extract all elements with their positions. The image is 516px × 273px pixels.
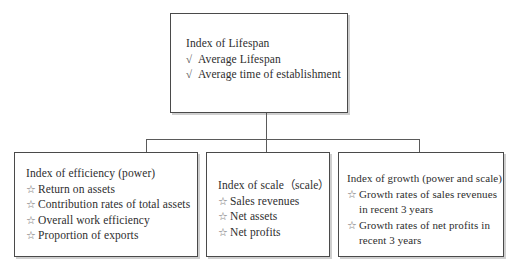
list-item: ☆ Growth rates of net profits in: [347, 218, 503, 234]
star-icon: ☆: [26, 182, 38, 198]
list-item-label: Average Lifespan: [198, 52, 281, 68]
star-icon: ☆: [347, 187, 359, 203]
list-item-continuation: ☆ recent 3 years: [347, 233, 503, 249]
spacer-icon: ☆: [347, 233, 359, 249]
connector-root-down: [266, 113, 267, 140]
list-item-label: Return on assets: [38, 182, 115, 198]
node-content: Index of Lifespan √ Average Lifespan √ A…: [186, 36, 347, 83]
node-index-of-growth[interactable]: Index of growth (power and scale) ☆ Grow…: [338, 152, 504, 257]
node-heading: Index of growth (power and scale): [347, 171, 503, 187]
node-index-of-scale[interactable]: Index of scale（scale） ☆ Sales revenues ☆…: [206, 152, 330, 257]
list-item: ☆ Growth rates of sales revenues: [347, 187, 503, 203]
list-item-continuation: ☆ in recent 3 years: [347, 202, 503, 218]
star-icon: ☆: [26, 213, 38, 229]
check-icon: √: [186, 67, 198, 83]
node-heading: Index of Lifespan: [186, 36, 347, 52]
list-item-label: Contribution rates of total assets: [38, 197, 190, 213]
star-icon: ☆: [26, 197, 38, 213]
list-item: √ Average time of establishment: [186, 67, 347, 83]
list-item: ☆ Return on assets: [26, 182, 197, 198]
node-heading-label: Index of Lifespan: [186, 36, 269, 52]
connector-horizontal-bus: [146, 139, 420, 140]
list-item-label: recent 3 years: [359, 233, 421, 249]
spacer-icon: ☆: [347, 202, 359, 218]
list-item: √ Average Lifespan: [186, 52, 347, 68]
list-item-label: Proportion of exports: [38, 228, 138, 244]
diagram-canvas: Index of Lifespan √ Average Lifespan √ A…: [0, 0, 516, 273]
node-heading: Index of scale（scale）: [218, 178, 329, 194]
connector-to-scale: [266, 139, 267, 153]
node-heading: Index of efficiency (power): [26, 166, 197, 182]
star-icon: ☆: [218, 209, 230, 225]
list-item-label: in recent 3 years: [359, 202, 433, 218]
node-content: Index of growth (power and scale) ☆ Grow…: [347, 171, 503, 249]
list-item-label: Sales revenues: [230, 194, 299, 210]
list-item-label: Net profits: [230, 225, 281, 241]
star-icon: ☆: [218, 225, 230, 241]
connector-to-growth: [419, 139, 420, 153]
list-item-label: Growth rates of net profits in: [359, 218, 490, 234]
list-item: ☆ Net assets: [218, 209, 329, 225]
node-index-of-efficiency[interactable]: Index of efficiency (power) ☆ Return on …: [14, 152, 198, 257]
list-item-label: Overall work efficiency: [38, 213, 150, 229]
list-item: ☆ Net profits: [218, 225, 329, 241]
list-item-label: Growth rates of sales revenues: [359, 187, 497, 203]
list-item: ☆ Proportion of exports: [26, 228, 197, 244]
node-heading-label: Index of growth (power and scale): [347, 171, 502, 187]
star-icon: ☆: [347, 218, 359, 234]
connector-to-efficiency: [146, 139, 147, 153]
star-icon: ☆: [218, 194, 230, 210]
star-icon: ☆: [26, 228, 38, 244]
list-item-label: Average time of establishment: [198, 67, 341, 83]
list-item-label: Net assets: [230, 209, 277, 225]
list-item: ☆ Overall work efficiency: [26, 213, 197, 229]
node-content: Index of efficiency (power) ☆ Return on …: [26, 166, 197, 244]
node-index-of-lifespan[interactable]: Index of Lifespan √ Average Lifespan √ A…: [170, 13, 348, 113]
node-heading-label: Index of efficiency (power): [26, 166, 155, 182]
node-heading-label: Index of scale（scale）: [218, 178, 330, 194]
list-item: ☆ Sales revenues: [218, 194, 329, 210]
node-content: Index of scale（scale） ☆ Sales revenues ☆…: [218, 178, 329, 240]
check-icon: √: [186, 52, 198, 68]
list-item: ☆ Contribution rates of total assets: [26, 197, 197, 213]
